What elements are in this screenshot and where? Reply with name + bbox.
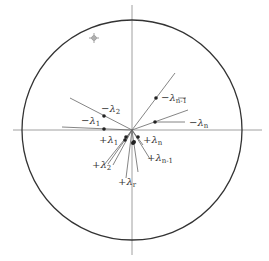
label-pos-lambda-n: +λn	[143, 134, 163, 147]
label-pos-lambda-1: +λ1	[99, 134, 118, 147]
label-pos-lambda-r: +λr	[118, 176, 137, 189]
label-neg-lambda-2: −λ2	[101, 103, 120, 116]
label-pos-lambda-2: +λ2	[92, 159, 111, 172]
label-neg-lambda-1: −λ1	[81, 115, 100, 128]
label-pos-lambda-n-1: +λn-1	[147, 152, 173, 165]
eigenvalue-diagram: −λ2 −λ1 −λn-1 −λn +λ1 +λ2 +λn +λn-1 +λr	[0, 0, 269, 261]
label-neg-lambda-n: −λn	[189, 117, 209, 130]
sparkle-marker-icon	[89, 33, 99, 43]
label-neg-lambda-n-1: −λn-1	[161, 92, 187, 105]
